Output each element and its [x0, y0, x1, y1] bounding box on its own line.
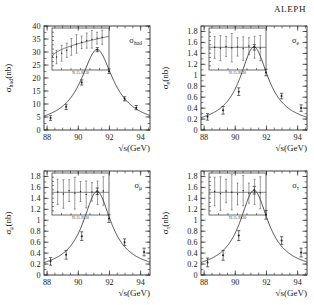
inset-data-point — [242, 176, 244, 206]
x-tick-label: 94 — [294, 278, 302, 287]
inset-data-point — [91, 183, 93, 201]
y-tick-label: 1.8 — [187, 172, 197, 181]
inset-data-point — [237, 183, 239, 205]
data-point — [123, 239, 126, 246]
inset-data-point — [81, 36, 83, 49]
data-point — [280, 237, 283, 245]
inset-data-point — [76, 35, 78, 53]
x-tick-label: 92 — [105, 278, 113, 287]
plot-hadronic: 05101520253035408890929491.15–91.30σhadσ… — [0, 10, 157, 162]
y-tick-label: 15 — [32, 87, 40, 96]
y-tick-label: 0.8 — [187, 82, 197, 91]
y-tick-label: 0.4 — [30, 249, 40, 258]
y-tick-label: 1.2 — [30, 205, 40, 214]
x-tick-label: 92 — [105, 133, 113, 142]
inset-data-point — [101, 30, 103, 44]
inset-data-point — [225, 179, 227, 203]
y-tick-label: 0 — [193, 126, 197, 135]
data-point — [237, 88, 240, 96]
panel-label: σμ — [134, 180, 142, 191]
figure-root: ALEPH 05101520253035408890929491.15–91.3… — [0, 0, 314, 305]
y-tick-label: 1.4 — [187, 49, 197, 58]
y-tick-label: 1.2 — [187, 60, 197, 69]
panel-electron: 00.20.40.60.811.21.41.61.88890929491.15–… — [157, 10, 314, 162]
inset-range-label: 91.15–91.30 — [229, 216, 246, 220]
inset-data-point — [231, 175, 233, 210]
inset-data-point — [219, 36, 221, 61]
inset-data-point — [214, 177, 216, 206]
plot-tau: 00.20.40.60.811.21.41.61.88890929491.15–… — [157, 155, 314, 305]
inset-data-point — [96, 32, 98, 44]
y-tick-label: 0.2 — [30, 260, 40, 269]
x-tick-label: 94 — [137, 133, 145, 142]
plot-electron: 00.20.40.60.811.21.41.61.88890929491.15–… — [157, 10, 314, 162]
inset-data-point — [242, 37, 244, 61]
inset-data-point — [219, 177, 221, 211]
y-tick-label: 0.8 — [187, 227, 197, 236]
y-axis-label: σhad(nb) — [3, 64, 14, 93]
inset-data-point — [70, 39, 72, 56]
y-tick-label: 35 — [32, 35, 40, 44]
y-tick-label: 1.2 — [187, 205, 197, 214]
fit-curve — [44, 49, 150, 116]
inset-data-point — [259, 177, 261, 209]
x-tick-label: 90 — [74, 133, 82, 142]
inset-data-point — [68, 180, 70, 202]
inset-muon: 91.15–91.30 — [52, 173, 109, 220]
data-point — [135, 106, 138, 110]
inset-data-point — [62, 180, 64, 209]
inset-data-point — [254, 179, 256, 204]
y-tick-label: 30 — [32, 48, 40, 57]
y-tick-label: 1.6 — [187, 183, 197, 192]
x-axis-label: √s(GeV) — [119, 143, 150, 153]
inset-data-point — [74, 177, 76, 209]
inset-tau: 91.15–91.30 — [209, 173, 266, 220]
inset-data-point — [86, 33, 88, 48]
inset-range-label: 91.15–91.30 — [72, 216, 89, 220]
y-tick-label: 1 — [193, 216, 197, 225]
panel-tau: 00.20.40.60.811.21.41.61.88890929491.15–… — [157, 155, 314, 305]
x-tick-label: 90 — [74, 278, 82, 287]
y-tick-label: 1.4 — [187, 194, 197, 203]
data-point — [65, 104, 68, 109]
x-tick-label: 90 — [231, 133, 239, 142]
y-axis-label: σμ(nb) — [3, 211, 14, 234]
fit-curve — [201, 190, 307, 262]
fit-curve — [44, 191, 150, 262]
panel-label: σhad — [129, 35, 142, 46]
inset-data-point — [61, 45, 63, 61]
inset-range-label: 91.15–91.30 — [229, 71, 246, 75]
data-point — [299, 105, 302, 112]
x-axis-label: √s(GeV) — [119, 288, 150, 298]
inset-range-label: 91.15–91.30 — [72, 71, 89, 75]
inset-data-point — [248, 183, 250, 203]
y-tick-label: 0.6 — [187, 238, 197, 247]
inset-data-point — [57, 179, 59, 204]
y-tick-label: 0.6 — [187, 93, 197, 102]
inset-data-point — [237, 38, 239, 56]
inset-data-point — [66, 43, 68, 57]
inset-data-point — [85, 181, 87, 208]
y-tick-label: 0.6 — [30, 238, 40, 247]
panel-hadronic: 05101520253035408890929491.15–91.30σhadσ… — [0, 10, 157, 162]
inset-data-point — [91, 31, 93, 49]
y-tick-label: 1.8 — [30, 172, 40, 181]
y-tick-label: 1 — [193, 71, 197, 80]
fit-curve — [201, 47, 307, 118]
panel-label: στ — [292, 180, 300, 191]
x-tick-label: 90 — [231, 278, 239, 287]
y-tick-label: 10 — [32, 100, 40, 109]
y-tick-label: 1.8 — [187, 27, 197, 36]
y-tick-label: 0 — [193, 271, 197, 280]
panel-label: σe — [292, 35, 300, 46]
y-tick-label: 1.6 — [30, 183, 40, 192]
y-tick-label: 0.2 — [187, 115, 197, 124]
x-tick-label: 88 — [43, 278, 51, 287]
x-tick-label: 88 — [200, 278, 208, 287]
data-point — [222, 106, 225, 114]
data-point — [80, 232, 83, 241]
y-tick-label: 25 — [32, 61, 40, 70]
y-axis-label: στ(nb) — [160, 212, 171, 234]
data-point — [299, 248, 302, 257]
plot-muon: 00.20.40.60.811.21.41.61.88890929491.15–… — [0, 155, 157, 305]
